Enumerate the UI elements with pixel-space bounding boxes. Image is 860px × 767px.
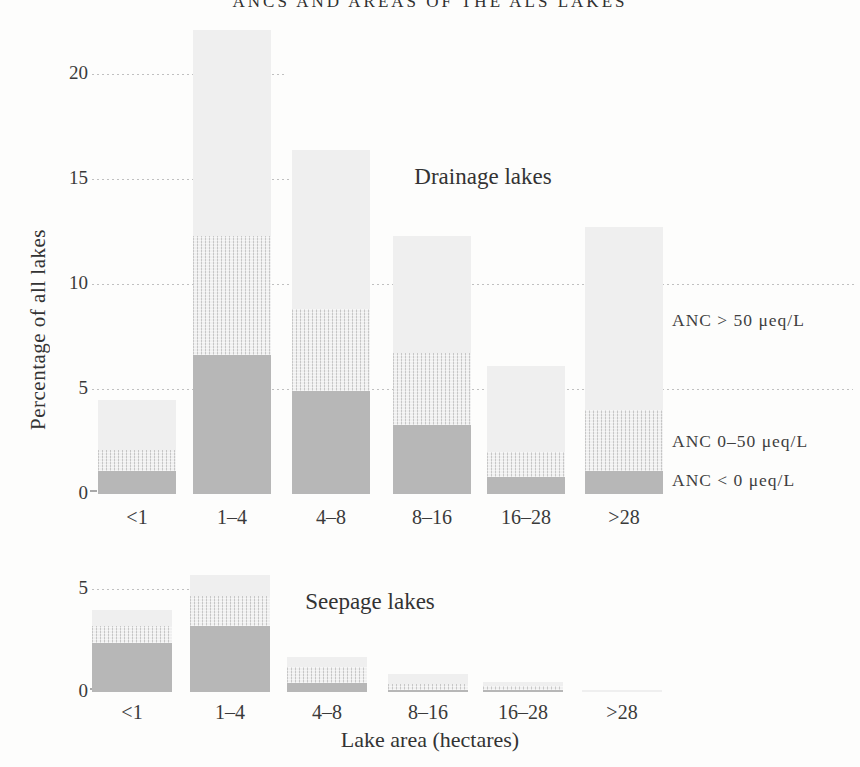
bar-segment-anc-above-50 [287, 657, 367, 667]
category-label: 16–28 [478, 701, 568, 724]
category-label: >28 [577, 701, 667, 724]
y-tick-label: 0 [46, 680, 88, 702]
category-label: 1–4 [187, 506, 277, 529]
bar-segment-anc-above-50 [393, 236, 471, 354]
y-tick-label: 0 [46, 482, 88, 504]
bar-segment-anc-below-0 [388, 690, 468, 692]
bar-segment-anc-above-50 [487, 366, 565, 452]
zero-tick-mark [90, 490, 97, 492]
legend-anc-0-50: ANC 0–50 μeq/L [672, 431, 808, 452]
bar-segment-anc-0-50 [287, 667, 367, 683]
y-tick-label: 20 [46, 62, 88, 84]
y-tick-label: 5 [46, 377, 88, 399]
category-label: >28 [579, 506, 669, 529]
bar-segment-anc-0-50 [190, 596, 270, 626]
bar-segment-anc-0-50 [483, 686, 563, 690]
category-label: 8–16 [383, 701, 473, 724]
bar-segment-anc-below-0 [292, 391, 370, 494]
category-label: <1 [92, 506, 182, 529]
bar-segment-anc-0-50 [292, 309, 370, 391]
bar-segment-anc-above-50 [585, 227, 663, 410]
category-label: 16–28 [481, 506, 571, 529]
bar-segment-anc-above-50 [292, 150, 370, 310]
category-label: 8–16 [387, 506, 477, 529]
y-axis-title: Percentage of all lakes [26, 195, 54, 465]
bar-segment-anc-below-0 [585, 471, 663, 494]
legend-anc-above-50: ANC > 50 μeq/L [672, 310, 805, 331]
x-axis-title: Lake area (hectares) [320, 727, 540, 753]
bar-segment-anc-0-50 [585, 410, 663, 471]
bar-segment-anc-0-50 [98, 450, 176, 471]
bar-segment-anc-0-50 [193, 236, 271, 356]
category-label: 4–8 [282, 701, 372, 724]
bar-segment-anc-above-50 [483, 682, 563, 686]
category-label: 4–8 [286, 506, 376, 529]
scanned-figure-page: ANCS AND AREAS OF THE ALS LAKES Percenta… [0, 0, 860, 767]
bar-segment-anc-below-0 [393, 425, 471, 494]
bar-segment-anc-below-0 [190, 626, 270, 692]
bar-segment-anc-0-50 [487, 452, 565, 477]
y-tick-label: 5 [46, 577, 88, 599]
bar-segment-anc-0-50 [92, 626, 172, 643]
bar-segment-anc-above-50 [388, 674, 468, 684]
bar-segment-anc-above-50 [190, 575, 270, 597]
bar-segment-anc-below-0 [287, 683, 367, 692]
bar-segment-anc-below-0 [98, 471, 176, 494]
bar-segment-anc-below-0 [483, 690, 563, 692]
bar-segment-anc-0-50 [388, 684, 468, 690]
figure-title: ANCS AND AREAS OF THE ALS LAKES [5, 0, 855, 10]
y-tick-label: 15 [46, 167, 88, 189]
bar-segment-anc-below-0 [92, 643, 172, 692]
category-label: <1 [87, 701, 177, 724]
legend-anc-below-0: ANC < 0 μeq/L [672, 470, 795, 491]
bar-segment-anc-below-0 [487, 477, 565, 494]
bar-segment-anc-0-50 [393, 353, 471, 424]
y-tick-label: 10 [46, 272, 88, 294]
bar-segment-anc-above-50 [193, 30, 271, 236]
category-label: 1–4 [185, 701, 275, 724]
drainage-lakes-label: Drainage lakes [373, 164, 593, 190]
bar-segment-anc-above-50 [582, 690, 662, 692]
seepage-lakes-label: Seepage lakes [260, 589, 480, 615]
bar-segment-anc-below-0 [193, 355, 271, 494]
bar-segment-anc-above-50 [92, 610, 172, 627]
bar-segment-anc-above-50 [98, 400, 176, 450]
